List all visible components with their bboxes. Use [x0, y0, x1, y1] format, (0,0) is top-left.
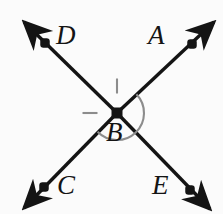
geometry-diagram-canvas: A B C D E	[0, 0, 223, 214]
diagram-svg	[0, 0, 223, 214]
point-label-c: C	[57, 172, 75, 199]
point-label-b: B	[106, 119, 123, 146]
point-dot-d	[40, 38, 50, 48]
point-label-d: D	[56, 22, 76, 49]
point-dot-a	[187, 39, 197, 49]
point-dot-c	[39, 182, 49, 192]
point-label-a: A	[148, 22, 165, 49]
point-dot-e	[185, 185, 195, 195]
ray-line-ca	[117, 22, 214, 113]
point-label-e: E	[152, 172, 169, 199]
